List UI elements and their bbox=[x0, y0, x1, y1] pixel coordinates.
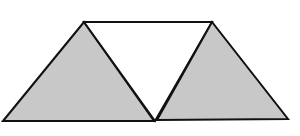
trapezoid-diagram bbox=[0, 0, 300, 136]
